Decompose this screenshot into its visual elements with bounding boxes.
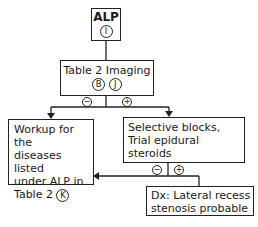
- blocks-line: Trial epidural: [128, 134, 244, 147]
- blocks-node: Selective blocks, Trial epidural steroid…: [123, 117, 245, 163]
- marker-k-icon: K: [56, 189, 69, 202]
- marker-i-icon: I: [100, 25, 113, 38]
- blocks-line: Selective blocks,: [128, 121, 244, 134]
- blocks-line: steroids: [128, 147, 244, 160]
- dx-line: Dx: Lateral recess: [151, 189, 253, 202]
- workup-line: diseases listed: [14, 149, 93, 175]
- workup-line: Workup for the: [14, 123, 93, 149]
- dx-line: stenosis probable: [151, 202, 253, 215]
- imaging-node: Table 2 Imaging B J: [60, 60, 154, 96]
- imaging-negative-icon: −: [82, 97, 92, 107]
- dx-node: Dx: Lateral recess stenosis probable: [146, 186, 254, 216]
- imaging-positive-icon: +: [122, 97, 132, 107]
- alp-node: ALP I: [91, 8, 121, 41]
- flowchart: ALP I Table 2 Imaging B J − + Workup for…: [0, 0, 258, 227]
- blocks-negative-icon: −: [152, 165, 162, 175]
- marker-b-icon: B: [92, 78, 105, 91]
- alp-title: ALP: [92, 11, 120, 24]
- imaging-title: Table 2 Imaging: [61, 64, 153, 77]
- workup-node: Workup for the diseases listed under ALP…: [8, 119, 94, 185]
- marker-j-icon: J: [109, 78, 122, 91]
- blocks-positive-icon: +: [174, 165, 184, 175]
- workup-line: Table 2: [14, 188, 53, 201]
- workup-line: under ALP in: [14, 175, 93, 188]
